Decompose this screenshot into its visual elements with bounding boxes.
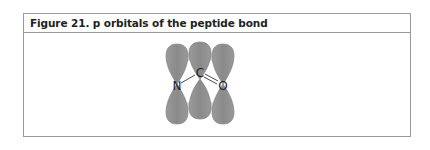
peptide-orbital-diagram: N C O xyxy=(0,0,430,150)
atom-label-O: O xyxy=(218,79,227,93)
orbital-lobe-N-top xyxy=(166,44,188,84)
bond-C-O-2 xyxy=(204,77,217,84)
atom-label-C: C xyxy=(196,66,204,80)
bond-N-C xyxy=(181,75,195,83)
orbital-lobe-C-bottom xyxy=(189,79,211,119)
orbital-C xyxy=(189,42,211,119)
atom-label-N: N xyxy=(173,79,182,93)
bond-C-O-1 xyxy=(205,74,218,81)
orbital-lobe-O-top xyxy=(212,44,234,84)
